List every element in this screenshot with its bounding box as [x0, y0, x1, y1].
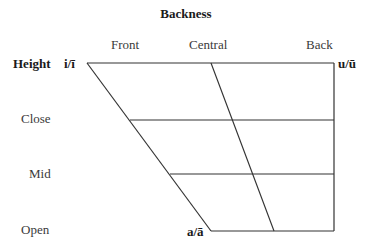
front-edge — [87, 63, 211, 231]
vowel-trapezoid — [0, 0, 372, 249]
central-divider — [211, 63, 274, 231]
